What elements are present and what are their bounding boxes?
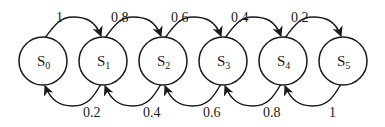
state-node-s3: S3 [199,37,247,85]
state-node-s1: S1 [79,37,127,85]
backward-edge-s4-s3 [225,84,281,106]
backward-edge-label: 1 [329,105,336,120]
forward-edge-label: 0.4 [231,10,249,25]
forward-edge-label: 0.8 [111,10,129,25]
backward-edge-s2-s1 [105,84,161,106]
state-diagram: S0S1S2S3S4S5 10.80.60.40.20.20.40.60.81 [0,0,385,127]
state-node-s0: S0 [19,37,67,85]
forward-edge-label: 0.2 [291,10,309,25]
backward-edge-s5-s4 [285,84,341,106]
backward-edge-label: 0.6 [203,105,221,120]
nodes: S0S1S2S3S4S5 [19,37,367,85]
forward-edge-label: 1 [56,10,63,25]
state-node-s4: S4 [259,37,307,85]
backward-edge-label: 0.4 [143,105,161,120]
backward-edge-label: 0.8 [263,105,281,120]
state-node-s5: S5 [319,37,367,85]
backward-edge-s1-s0 [45,84,101,106]
forward-edge-s0-s1 [45,17,101,38]
forward-edge-label: 0.6 [171,10,189,25]
backward-edge-label: 0.2 [83,105,101,120]
state-node-s2: S2 [139,37,187,85]
backward-edge-s3-s2 [165,84,221,106]
